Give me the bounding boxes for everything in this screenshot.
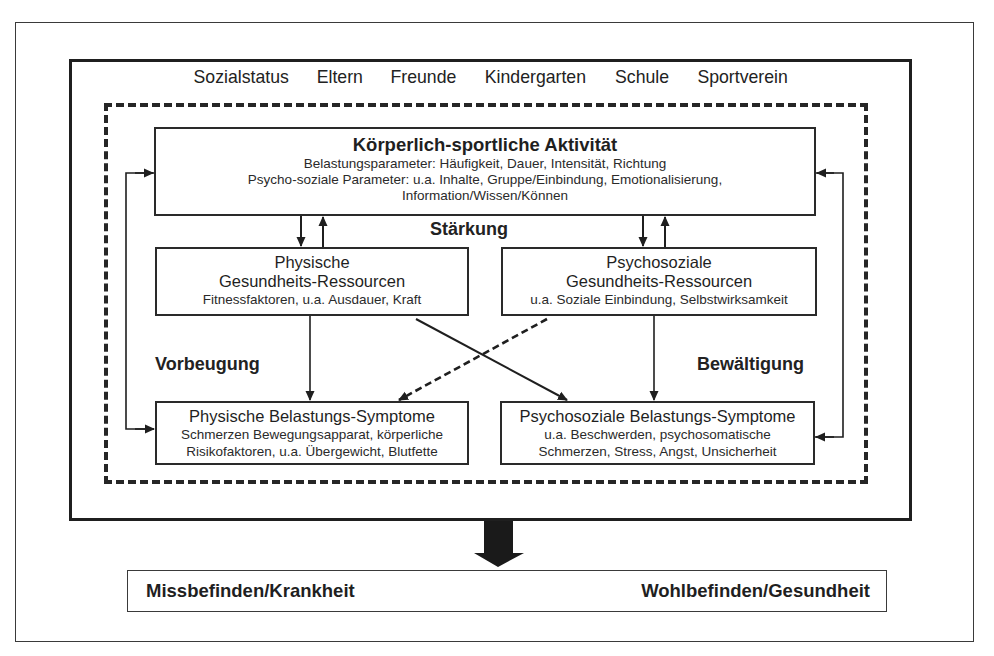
coping-label: Bewältigung <box>697 354 804 375</box>
right-feedback-line <box>815 173 843 437</box>
psychosocial-symptoms-line-1: u.a. Beschwerden, psychosomatische <box>502 426 813 443</box>
left-feedback-line <box>126 173 154 429</box>
strengthening-label: Stärkung <box>430 219 508 240</box>
psychosocial-resources-box: Psychosoziale Gesundheits-Ressourcen u.a… <box>501 247 817 316</box>
block-arrow-down <box>474 521 524 567</box>
psychosocial-symptoms-title: Psychosoziale Belastungs-Symptome <box>502 406 813 426</box>
physical-symptoms-box: Physische Belastungs-Symptome Schmerzen … <box>155 401 469 465</box>
psychosocial-resources-title-2: Gesundheits-Ressourcen <box>503 272 815 291</box>
physical-resources-title-1: Physische <box>157 253 467 272</box>
outcome-health: Wohlbefinden/Gesundheit <box>641 580 870 602</box>
prevention-label: Vorbeugung <box>155 354 260 375</box>
physical-resources-box: Physische Gesundheits-Ressourcen Fitness… <box>155 247 469 316</box>
activity-psychosocial-parameters: Psycho-soziale Parameter: u.a. Inhalte, … <box>156 172 814 188</box>
psychosocial-symptoms-line-2: Schmerzen, Stress, Angst, Unsicherheit <box>502 443 813 460</box>
activity-load-parameters: Belastungsparameter: Häufigkeit, Dauer, … <box>156 156 814 172</box>
psychosocial-symptoms-box: Psychosoziale Belastungs-Symptome u.a. B… <box>500 401 815 465</box>
activity-information: Information/Wissen/Können <box>156 188 814 204</box>
outcome-illness: Missbefinden/Krankheit <box>146 580 355 602</box>
arrow-psychosocial-resources-to-physical-symptoms <box>399 319 547 400</box>
physical-resources-detail: Fitnessfaktoren, u.a. Ausdauer, Kraft <box>157 291 467 308</box>
physical-symptoms-title: Physische Belastungs-Symptome <box>157 406 467 426</box>
psychosocial-resources-title-1: Psychosoziale <box>503 253 815 272</box>
activity-title: Körperlich-sportliche Aktivität <box>156 134 814 156</box>
physical-resources-title-2: Gesundheits-Ressourcen <box>157 272 467 291</box>
psychosocial-resources-detail: u.a. Soziale Einbindung, Selbstwirksamke… <box>503 291 815 308</box>
arrow-physical-resources-to-psychosocial-symptoms <box>416 319 567 400</box>
physical-symptoms-line-2: Risikofaktoren, u.a. Übergewicht, Blutfe… <box>157 443 467 460</box>
connector-arrows <box>0 0 994 656</box>
activity-box: Körperlich-sportliche Aktivität Belastun… <box>154 127 816 216</box>
outcome-box: Missbefinden/Krankheit Wohlbefinden/Gesu… <box>127 570 887 612</box>
physical-symptoms-line-1: Schmerzen Bewegungsapparat, körperliche <box>157 426 467 443</box>
